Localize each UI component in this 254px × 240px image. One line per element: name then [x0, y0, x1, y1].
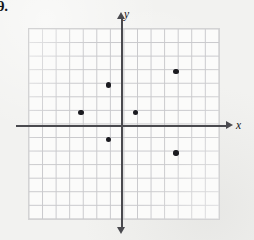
data-point — [173, 150, 178, 155]
y-axis-line — [121, 16, 123, 229]
problem-number: 9. — [0, 0, 8, 14]
x-axis-arrow-icon — [226, 121, 233, 129]
data-point — [78, 110, 83, 115]
y-axis-arrow-down-icon — [117, 227, 125, 234]
coordinate-plane-figure: x y — [29, 29, 219, 219]
data-point — [173, 69, 178, 74]
data-point — [106, 137, 111, 142]
data-point — [133, 110, 138, 115]
x-axis-label: x — [236, 120, 241, 132]
data-point — [106, 82, 111, 87]
grid-background — [29, 29, 219, 219]
y-axis-label: y — [124, 9, 129, 21]
